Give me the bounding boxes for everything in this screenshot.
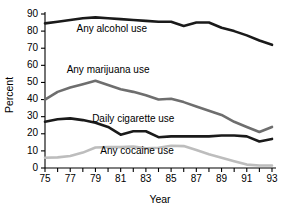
- series-label-any-cocaine-use: Any cocaine use: [100, 145, 174, 156]
- chart-canvas: 0102030405060708090 75777981838587899193…: [0, 0, 281, 210]
- y-tick-label: 50: [27, 76, 39, 87]
- x-tick-label: 91: [241, 173, 253, 184]
- x-tick-label: 93: [266, 173, 278, 184]
- series-layer: [45, 17, 272, 165]
- x-tick-label: 77: [65, 173, 77, 184]
- y-tick-label: 20: [27, 127, 39, 138]
- series-line-any-marijuana-use: [45, 81, 272, 132]
- x-tick-label: 83: [140, 173, 152, 184]
- y-tick-label: 10: [27, 145, 39, 156]
- y-axis-title: Percent: [3, 77, 15, 113]
- x-tick-label: 85: [166, 173, 178, 184]
- series-label-any-alcohol-use: Any alcohol use: [77, 23, 148, 34]
- y-tick-label: 80: [27, 25, 39, 36]
- y-tick-label: 40: [27, 93, 39, 104]
- x-axis-title: Year: [149, 193, 171, 205]
- y-tick-label: 90: [27, 8, 39, 19]
- x-axis: 75777981838587899193: [39, 168, 278, 184]
- x-tick-label: 87: [191, 173, 203, 184]
- y-axis: 0102030405060708090: [27, 8, 45, 173]
- x-tick-label: 89: [216, 173, 228, 184]
- series-label-daily-cigarette-use: Daily cigarette use: [92, 113, 175, 124]
- y-tick-label: 60: [27, 59, 39, 70]
- line-chart: 0102030405060708090 75777981838587899193…: [0, 0, 281, 210]
- series-label-any-marijuana-use: Any marijuana use: [67, 64, 150, 75]
- y-tick-label: 70: [27, 42, 39, 53]
- x-tick-label: 75: [39, 173, 51, 184]
- y-tick-label: 0: [32, 162, 38, 173]
- y-tick-label: 30: [27, 110, 39, 121]
- x-tick-label: 79: [90, 173, 102, 184]
- x-tick-label: 81: [115, 173, 127, 184]
